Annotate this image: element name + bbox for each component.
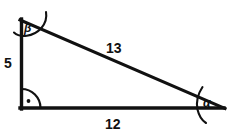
angle-label-alpha: α [203,97,210,109]
triangle-figure: 5 13 12 β α [0,0,229,139]
side-length-label-hypotenuse: 13 [106,41,122,55]
right-angle-marker [22,89,41,108]
angle-label-beta: β [24,22,31,34]
side-hypotenuse [20,20,225,109]
side-length-label-base: 12 [105,117,121,131]
right-angle-arc-icon [22,89,41,108]
side-length-label-vertical: 5 [4,56,12,70]
right-angle-dot-icon [27,99,31,103]
triangle-outline [20,19,225,109]
